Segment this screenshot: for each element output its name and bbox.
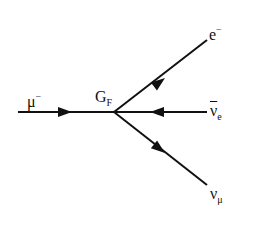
antineutrino-label: νe [210, 103, 222, 122]
muon-neutrino-flavor: μ [217, 194, 222, 205]
electron-label: e− [209, 25, 222, 43]
arrow-right-icon [58, 107, 72, 117]
vertex-label: GF [95, 89, 112, 108]
coupling-symbol: G [95, 88, 107, 105]
muon-charge: − [36, 91, 42, 102]
arrow-left-icon [150, 107, 164, 117]
electron-charge: − [216, 24, 222, 35]
muon-neutrino-label: νμ [210, 186, 223, 205]
muon-symbol: μ [27, 93, 36, 110]
coupling-subscript: F [107, 97, 113, 108]
muon-label: μ− [27, 92, 41, 110]
electron-line [114, 40, 207, 112]
antineutrino-flavor: e [217, 111, 221, 122]
